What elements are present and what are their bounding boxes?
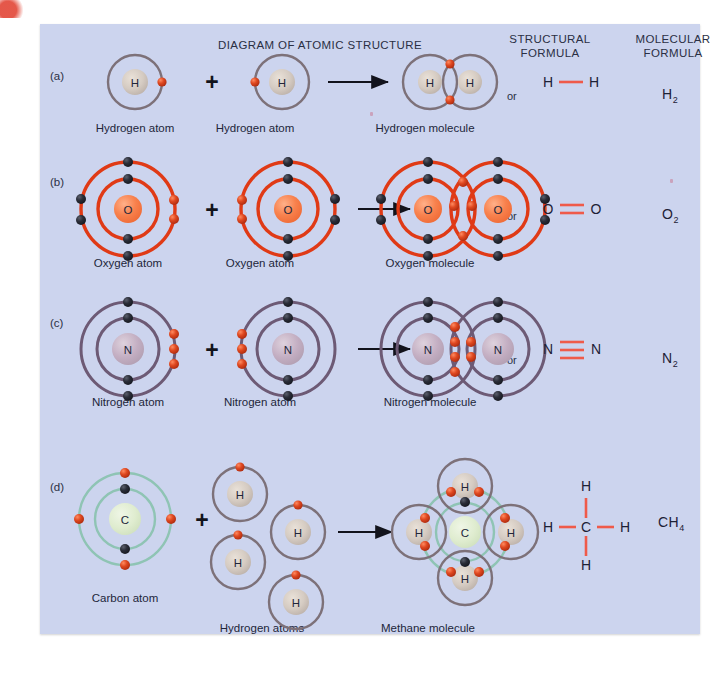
plus-sign: + (205, 69, 218, 95)
oxygen-atom-left: O (76, 157, 179, 261)
element-symbol-N: N (284, 344, 292, 356)
inner-electron (460, 557, 470, 567)
inner-electron (493, 234, 503, 244)
shared-electron (450, 337, 460, 347)
structural-atom-H-bottom: H (581, 557, 591, 573)
valence-electron (250, 77, 259, 86)
structural-atom-H: H (589, 74, 599, 90)
inner-electron (423, 174, 433, 184)
element-symbol-H: H (294, 527, 302, 539)
hydrogen-atom-4: H (269, 570, 323, 629)
outer-electron (330, 194, 340, 204)
inner-electron (423, 375, 433, 385)
element-symbol-O: O (284, 204, 293, 216)
shared-electron (420, 541, 430, 551)
inner-electron (120, 484, 130, 494)
shared-electron (458, 177, 468, 187)
valence-electron (166, 514, 176, 524)
shared-electron (420, 513, 430, 523)
shared-electron (466, 352, 476, 362)
oxygen-atom-right: O (237, 157, 340, 261)
structural-atom-H-right: H (620, 519, 630, 535)
inner-electron (283, 375, 293, 385)
outer-electron (376, 215, 386, 225)
shared-electron (500, 541, 510, 551)
structural-formula-n2: N N (543, 341, 601, 358)
element-symbol-H: H (426, 77, 434, 89)
outer-electron (76, 215, 86, 225)
valence-electron (169, 195, 179, 205)
outer-electron (493, 297, 503, 307)
reaction-row-nitrogen: N + N (81, 297, 601, 401)
valence-electron (120, 468, 130, 478)
shared-electron (500, 513, 510, 523)
element-symbol-O: O (124, 204, 133, 216)
shared-electron (450, 322, 460, 332)
valence-electron (120, 560, 130, 570)
methane-hydrogen-left: H (392, 505, 446, 559)
figure-page: DIAGRAM OF ATOMIC STRUCTURE STRUCTURAL F… (0, 0, 718, 682)
reaction-row-oxygen: O + O (76, 157, 602, 261)
structural-atom-H-left: H (543, 519, 553, 535)
shared-electron (445, 59, 454, 68)
shared-electron (449, 201, 459, 211)
element-symbol-H: H (236, 489, 244, 501)
structural-atom-N: N (543, 341, 553, 357)
shared-electron (466, 337, 476, 347)
hydrogen-atom-group: H H H (211, 462, 325, 629)
outer-electron (123, 297, 133, 307)
valence-electron (169, 359, 179, 369)
element-symbol-O: O (424, 204, 433, 216)
shared-electron (450, 367, 460, 377)
element-symbol-N: N (424, 344, 432, 356)
nitrogen-atom-right: N (237, 297, 335, 401)
valence-electron (237, 359, 247, 369)
outer-electron (283, 157, 293, 167)
outer-electron (123, 391, 133, 401)
element-symbol-H: H (415, 527, 423, 539)
valence-electron (237, 214, 247, 224)
element-symbol-H: H (278, 77, 286, 89)
outer-electron (76, 194, 86, 204)
inner-electron (123, 234, 133, 244)
outer-electron (423, 251, 433, 261)
shared-electron (458, 231, 468, 241)
structural-atom-C: C (581, 519, 591, 535)
valence-electron (293, 500, 302, 509)
outer-electron (493, 157, 503, 167)
inner-electron (120, 544, 130, 554)
shared-electron (450, 352, 460, 362)
element-symbol-H: H (461, 481, 469, 493)
valence-electron (233, 530, 242, 539)
structural-atom-O: O (591, 201, 602, 217)
nitrogen-atom-left: N (81, 297, 179, 401)
outer-electron (493, 251, 503, 261)
outer-electron (283, 297, 293, 307)
methane-hydrogen-right: H (484, 505, 538, 559)
shared-electron (474, 567, 484, 577)
inner-electron (283, 313, 293, 323)
shared-electron (467, 201, 477, 211)
hydrogen-atom-left: H (108, 55, 167, 109)
outer-electron (423, 157, 433, 167)
diagram-panel: DIAGRAM OF ATOMIC STRUCTURE STRUCTURAL F… (40, 24, 700, 634)
element-symbol-H: H (234, 557, 242, 569)
outer-electron (123, 251, 133, 261)
atomic-diagram-canvas: H + H H H (40, 24, 700, 634)
shared-electron (446, 567, 456, 577)
outer-electron (283, 391, 293, 401)
outer-electron (423, 391, 433, 401)
inner-electron (283, 174, 293, 184)
hydrogen-atom-2: H (211, 530, 265, 589)
outer-electron (376, 194, 386, 204)
inner-electron (493, 375, 503, 385)
valence-electron (291, 570, 300, 579)
plus-sign: + (205, 197, 218, 223)
reaction-row-hydrogen: H + H H H (108, 55, 599, 109)
hydrogen-molecule: H H (403, 55, 497, 109)
hydrogen-atom-1: H (213, 462, 267, 521)
inner-electron (423, 313, 433, 323)
shared-electron (474, 487, 484, 497)
outer-electron (423, 297, 433, 307)
inner-electron (423, 234, 433, 244)
